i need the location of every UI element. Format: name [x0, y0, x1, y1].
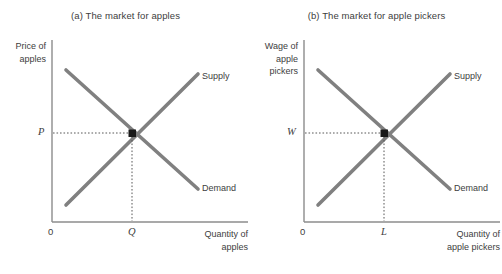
- price-tick-label: P: [38, 126, 44, 137]
- panel-market-for-apple-pickers: (b) The market for apple pickers Wage of…: [251, 0, 502, 274]
- demand-curve-label: Demand: [454, 183, 488, 193]
- equilibrium-marker: [129, 130, 137, 138]
- x-axis-label: Quantity of apple pickers: [414, 228, 500, 253]
- x-axis-label: Quantity of apples: [178, 228, 248, 253]
- origin-tick-label: 0: [300, 226, 305, 237]
- origin-tick-label: 0: [48, 226, 53, 237]
- quantity-tick-label: Q: [128, 226, 136, 237]
- economics-figure: (a) The market for apples Price of apple…: [0, 0, 502, 274]
- wage-tick-label: W: [287, 126, 296, 137]
- supply-curve: [318, 74, 450, 205]
- supply-curve-label: Supply: [454, 71, 482, 81]
- supply-curve-label: Supply: [202, 71, 230, 81]
- panel-market-for-apples: (a) The market for apples Price of apple…: [0, 0, 251, 274]
- labor-tick-label: L: [381, 226, 387, 237]
- demand-curve-label: Demand: [202, 183, 236, 193]
- y-axis-label: Price of apples: [0, 40, 46, 65]
- equilibrium-marker: [381, 130, 389, 138]
- y-axis-label: Wage of apple pickers: [251, 40, 298, 78]
- supply-curve: [66, 74, 198, 205]
